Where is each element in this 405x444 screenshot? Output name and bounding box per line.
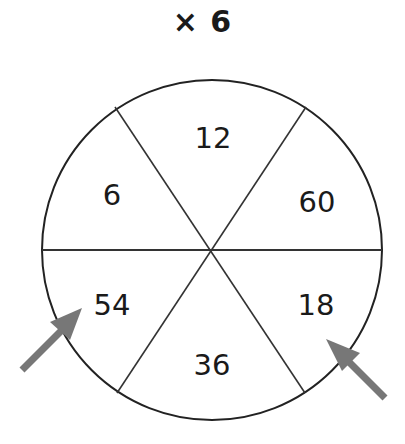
sector-lower-right: 18 — [298, 288, 335, 322]
sector-bottom: 36 — [194, 348, 231, 382]
sector-top: 12 — [195, 121, 232, 155]
sector-upper-left: 6 — [103, 178, 121, 212]
sector-lower-left: 54 — [94, 288, 131, 322]
sector-upper-right: 60 — [299, 185, 336, 219]
multiplication-wheel: 12 60 18 36 54 6 — [0, 0, 405, 444]
